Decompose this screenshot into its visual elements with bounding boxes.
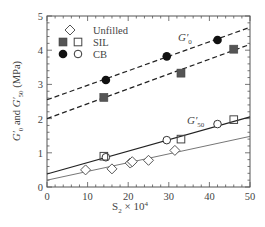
chart: 01020304050012345 Unfilled SIL CB G′0 G′…	[0, 0, 265, 227]
x-tick-label: 30	[164, 191, 175, 202]
legend: Unfilled SIL CB	[59, 25, 129, 60]
x-tick-label: 0	[44, 191, 49, 202]
y-tick-label: 3	[38, 79, 43, 90]
open-square-marker	[74, 38, 82, 46]
legend-label-sil: SIL	[93, 37, 109, 48]
x-tick-label: 50	[245, 191, 256, 202]
filled-square-marker	[230, 45, 238, 53]
filled-square-marker	[100, 93, 108, 101]
open-diamond-marker	[65, 25, 75, 35]
y-tick-label: 5	[38, 11, 43, 22]
y-axis-label: G′0 and G′50 (MPa)	[11, 60, 25, 141]
filled-circle-marker	[162, 52, 171, 61]
tick-labels: 01020304050012345	[38, 11, 256, 202]
x-tick-label: 40	[204, 191, 215, 202]
annotation-g0: G′0	[178, 31, 192, 46]
filled-square-marker	[59, 38, 67, 46]
filled-circle-marker	[102, 76, 111, 85]
legend-label-unfilled: Unfilled	[93, 25, 129, 36]
open-diamond-marker	[81, 165, 91, 175]
filled-circle-marker	[213, 36, 222, 45]
y-tick-label: 1	[38, 148, 43, 159]
y-tick-label: 2	[38, 114, 43, 125]
legend-markers	[59, 25, 82, 58]
filled-circle-marker	[59, 50, 68, 59]
open-circle-marker	[163, 136, 171, 144]
y-tick-label: 4	[38, 45, 44, 56]
filled-square-marker	[177, 69, 185, 77]
open-diamond-marker	[170, 145, 180, 155]
open-circle-marker	[74, 50, 82, 58]
annotation-g50: G′50	[187, 114, 205, 129]
open-diamond-marker	[144, 155, 154, 165]
legend-label-cb: CB	[93, 49, 107, 60]
x-axis-label: S2 × 104	[112, 200, 148, 215]
y-tick-label: 0	[38, 182, 43, 193]
open-circle-marker	[214, 120, 222, 128]
x-tick-label: 10	[82, 191, 93, 202]
